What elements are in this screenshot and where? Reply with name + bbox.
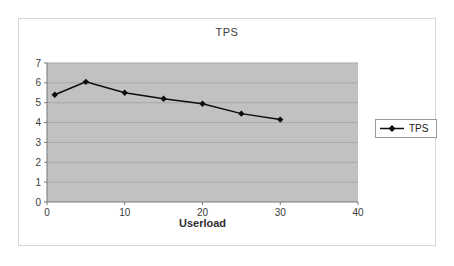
y-tick-label: 7: [35, 58, 41, 69]
chart-frame: TPS 01234567010203040 Userload TPS: [18, 18, 436, 246]
y-tick-label: 1: [35, 177, 41, 188]
legend-line-marker-icon: [378, 124, 406, 133]
y-tick-label: 2: [35, 157, 41, 168]
legend-label: TPS: [409, 123, 428, 134]
legend: TPS: [375, 119, 437, 138]
y-tick-label: 3: [35, 137, 41, 148]
y-tick-label: 4: [35, 117, 41, 128]
chart-image: TPS 01234567010203040 Userload TPS: [0, 0, 454, 266]
plot-svg: 01234567010203040: [19, 19, 435, 245]
y-tick-label: 6: [35, 77, 41, 88]
x-axis-label: Userload: [47, 217, 358, 229]
y-tick-label: 5: [35, 97, 41, 108]
y-tick-label: 0: [35, 197, 41, 208]
